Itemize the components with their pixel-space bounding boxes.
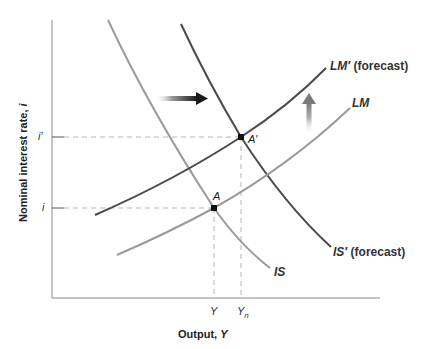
right-shift-arrow-icon [155, 92, 208, 105]
is-prime-name: IS′ [333, 245, 347, 259]
y-axis-var: i [17, 103, 29, 106]
lm-prime-label: LM′ (forecast) [330, 59, 408, 73]
is-label: IS [274, 265, 285, 279]
lm-prime-curve [95, 68, 326, 215]
point-a-label: A [213, 190, 220, 202]
is-name: IS [274, 265, 285, 279]
lm-name: LM [352, 96, 369, 110]
x-axis-var: Y [220, 328, 227, 340]
up-shift-arrow-icon [302, 93, 316, 133]
point-a-prime-marker [238, 134, 244, 140]
y-tick-i: i [42, 201, 44, 213]
x-tick-y-text: Y [210, 305, 217, 317]
x-tick-y: Y [210, 305, 217, 317]
y-tick-i-prime: i′ [38, 130, 43, 142]
y-axis-title-text: Nominal interest rate, [17, 110, 29, 222]
lm-label: LM [352, 96, 369, 110]
point-a-prime-label: A′ [248, 133, 257, 145]
x-axis-title: Output, Y [178, 328, 228, 340]
is-lm-diagram [0, 0, 429, 349]
x-tick-yn: Yn [237, 305, 249, 320]
is-prime-suffix: (forecast) [347, 245, 405, 259]
y-axis-title: Nominal interest rate, i [17, 103, 29, 222]
x-tick-yn-sub: n [244, 311, 248, 320]
x-axis-title-text: Output, [178, 328, 217, 340]
is-prime-label: IS′ (forecast) [333, 245, 405, 259]
point-a-marker [211, 205, 217, 211]
lm-prime-name: LM′ [330, 59, 350, 73]
lm-prime-suffix: (forecast) [350, 59, 408, 73]
